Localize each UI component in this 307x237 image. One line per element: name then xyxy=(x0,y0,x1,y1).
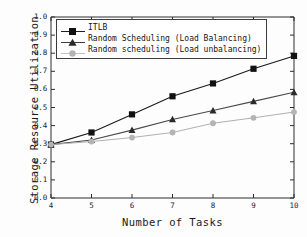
legend-label-0: ITLB xyxy=(86,23,107,32)
data-point xyxy=(251,115,257,121)
data-point xyxy=(89,139,95,145)
legend-marker-square-icon xyxy=(60,22,86,33)
data-point xyxy=(250,66,256,72)
series-2 xyxy=(48,109,297,147)
legend-marker-triangle-icon xyxy=(60,33,86,44)
data-point xyxy=(291,53,297,59)
data-point xyxy=(129,135,135,141)
data-point xyxy=(129,111,135,117)
data-point xyxy=(48,142,54,148)
legend-item-0: ITLB xyxy=(60,22,261,33)
legend-label-1: Random Scheduling (Load Balancing) xyxy=(86,34,252,43)
data-series-layer xyxy=(48,53,298,148)
chart-legend: ITLB Random Scheduling (Load Balancing) … xyxy=(56,19,267,59)
data-point xyxy=(210,120,216,126)
chart-figure: Storage Resource Utilization Number of T… xyxy=(0,0,307,237)
data-point xyxy=(169,93,175,99)
legend-label-2: Random scheduling (Load unbalancing) xyxy=(86,45,261,54)
legend-marker-circle-icon xyxy=(60,44,86,55)
data-point xyxy=(210,80,216,86)
legend-item-2: Random scheduling (Load unbalancing) xyxy=(60,44,261,55)
data-point xyxy=(291,109,297,115)
data-point xyxy=(88,129,94,135)
data-point xyxy=(170,130,176,136)
legend-item-1: Random Scheduling (Load Balancing) xyxy=(60,33,261,44)
